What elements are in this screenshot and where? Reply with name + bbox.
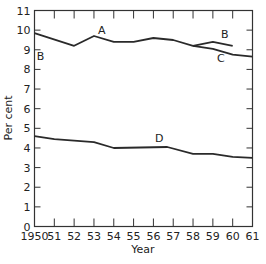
y-tick-label: 11 [17, 5, 31, 18]
x-tick-label: 1950 [21, 230, 49, 243]
curve-label-d: D [155, 132, 163, 145]
y-tick-label: 10 [17, 24, 31, 37]
series-line-b [193, 42, 233, 46]
x-tick-label: 59 [206, 230, 220, 243]
y-tick-label: 1 [24, 201, 31, 214]
y-tick-label: 3 [24, 162, 31, 175]
y-tick-label: 5 [24, 122, 31, 135]
x-tick-label: 60 [226, 230, 240, 243]
y-axis-label: Per cent [2, 95, 15, 141]
x-tick-label: 51 [47, 230, 61, 243]
line-chart: 0123456789101119505152535455565758596061… [0, 0, 266, 264]
x-tick-label: 57 [166, 230, 180, 243]
curve-label-a: A [98, 24, 106, 37]
series-line-d [35, 136, 253, 158]
y-tick-label: 2 [24, 181, 31, 194]
x-tick-label: 54 [107, 230, 121, 243]
x-tick-label: 55 [127, 230, 141, 243]
y-tick-label: 8 [24, 63, 31, 76]
x-tick-label: 56 [146, 230, 160, 243]
x-axis-label: Year [130, 243, 155, 256]
curve-label-b: B [37, 50, 45, 63]
curve-label-c: C [217, 52, 225, 65]
x-tick-label: 58 [186, 230, 200, 243]
y-tick-label: 4 [24, 142, 31, 155]
y-tick-label: 6 [24, 103, 31, 116]
y-tick-label: 7 [24, 83, 31, 96]
x-tick-label: 52 [67, 230, 81, 243]
curve-label-b: B [221, 28, 229, 41]
x-tick-label: 53 [87, 230, 101, 243]
x-tick-label: 61 [246, 230, 260, 243]
y-tick-label: 9 [24, 44, 31, 57]
